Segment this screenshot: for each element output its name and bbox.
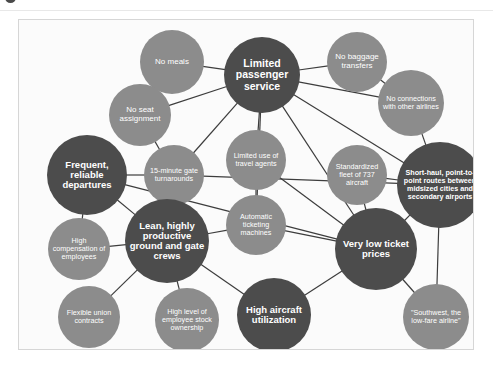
diagram-link [437, 227, 439, 285]
diagram-link [258, 112, 259, 131]
diagram-link [299, 66, 329, 70]
node-gate-turnarounds[interactable]: 15-minute gate turnarounds [144, 145, 204, 205]
figure-root: No mealsLimited passenger serviceNo bagg… [0, 0, 493, 369]
node-label: Lean, highly productive ground and gate … [127, 221, 207, 262]
node-label: Automatic ticketing machines [228, 213, 284, 236]
node-label: Limited use of travel agents [228, 152, 284, 168]
node-very-low-prices[interactable]: Very low ticket prices [335, 208, 417, 290]
node-southwest-slogan[interactable]: "Southwest, the low-fare airline" [403, 284, 469, 350]
node-lean-crews[interactable]: Lean, highly productive ground and gate … [125, 199, 209, 283]
node-stock-ownership[interactable]: High level of employee stock ownership [155, 288, 219, 350]
node-no-connections[interactable]: No connections with other airlines [378, 70, 444, 136]
node-standardized-fleet[interactable]: Standardized fleet of 737 aircraft [327, 145, 387, 205]
node-label: Limited passenger service [226, 58, 298, 92]
diagram-link [109, 245, 126, 247]
diagram-canvas: No mealsLimited passenger serviceNo bagg… [19, 20, 473, 349]
node-frequent-departures[interactable]: Frequent, reliable departures [47, 135, 127, 215]
node-label: "Southwest, the low-fare airline" [405, 309, 467, 325]
diagram-link [203, 66, 226, 69]
node-no-baggage[interactable]: No baggage transfers [327, 32, 387, 92]
node-label: High aircraft utilization [239, 305, 309, 326]
node-label: Standardized fleet of 737 aircraft [329, 163, 385, 186]
diagram-link [304, 271, 342, 296]
node-label: Flexible union contracts [60, 309, 118, 325]
header-divider [0, 10, 493, 11]
node-aircraft-utilization[interactable]: High aircraft utilization [237, 278, 311, 350]
node-no-seat[interactable]: No seat assignment [109, 84, 171, 146]
node-limited-passenger[interactable]: Limited passenger service [224, 37, 300, 113]
node-travel-agents[interactable]: Limited use of travel agents [226, 130, 286, 190]
node-flexible-union[interactable]: Flexible union contracts [58, 286, 120, 348]
node-ticketing-machines[interactable]: Automatic ticketing machines [226, 195, 286, 255]
node-high-compensation[interactable]: High compensation of employees [48, 218, 110, 280]
diagram-link [402, 279, 414, 293]
page-header-strip [0, 0, 493, 14]
bullet-icon [5, 0, 16, 3]
node-label: No meals [142, 58, 202, 67]
node-label: Frequent, reliable departures [49, 160, 125, 191]
node-label: Very low ticket prices [337, 239, 415, 260]
node-label: No connections with other airlines [380, 95, 442, 111]
node-no-meals[interactable]: No meals [140, 30, 204, 94]
node-label: Short-haul, point-to-point routes betwee… [399, 169, 474, 200]
node-label: No seat assignment [111, 106, 169, 123]
node-label: No baggage transfers [329, 53, 385, 70]
diagram-link [201, 264, 245, 294]
diagram-link [207, 230, 227, 234]
node-label: High compensation of employees [50, 237, 108, 260]
diagram-link [117, 200, 135, 215]
node-label: 15-minute gate turnarounds [146, 167, 202, 183]
node-label: High level of employee stock ownership [157, 308, 217, 331]
node-short-haul[interactable]: Short-haul, point-to-point routes betwee… [397, 142, 474, 228]
diagram-panel: No mealsLimited passenger serviceNo bagg… [18, 19, 474, 350]
diagram-link [110, 270, 137, 296]
